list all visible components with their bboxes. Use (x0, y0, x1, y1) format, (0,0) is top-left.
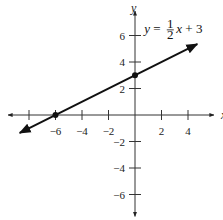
x-tick-label: 4 (185, 125, 191, 137)
x-tick-label: −4 (76, 125, 88, 137)
y-tick-label: −2 (113, 136, 125, 148)
equation-fraction-denominator: 2 (167, 27, 174, 42)
equation-rest: x + 3 (175, 21, 202, 36)
y-axis-label: y (130, 1, 137, 15)
y-tick-label: −6 (113, 189, 125, 201)
data-point (132, 72, 138, 78)
data-point (53, 112, 59, 118)
line-graph: xy−6−4−224642−2−4−6 y = 12x + 3 (0, 0, 223, 220)
x-tick-label: 2 (159, 125, 165, 137)
y-tick-label: 2 (120, 83, 126, 95)
x-axis-label: x (220, 108, 223, 122)
x-tick-label: −6 (50, 125, 62, 137)
equation-label: y = (142, 21, 160, 36)
y-tick-label: 6 (120, 30, 126, 42)
y-tick-label: 4 (120, 56, 126, 68)
y-tick-label: −4 (113, 162, 125, 174)
